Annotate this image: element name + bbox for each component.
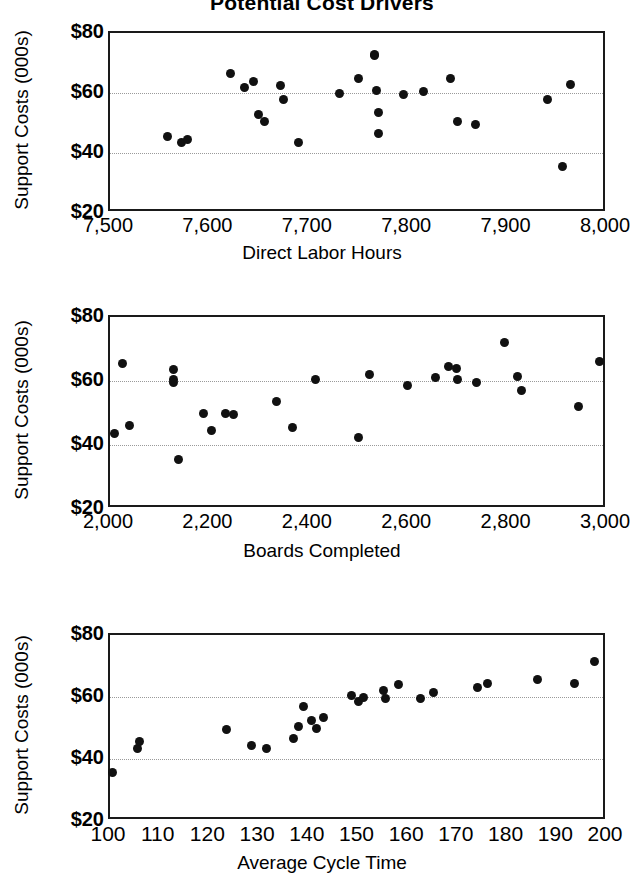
data-point xyxy=(262,744,271,753)
data-point xyxy=(471,120,480,129)
x-tick-label: 160 xyxy=(389,822,424,846)
data-point xyxy=(240,83,249,92)
data-point xyxy=(276,81,285,90)
data-point xyxy=(163,132,172,141)
data-point xyxy=(374,129,383,138)
x-tick-label: 200 xyxy=(587,822,622,846)
x-tick-label: 2,000 xyxy=(83,510,133,533)
y-axis-tick-labels: $20$40$60$80 xyxy=(42,31,104,211)
data-point xyxy=(335,89,344,98)
x-tick-label: 2,400 xyxy=(282,510,332,533)
x-tick-label: 2,600 xyxy=(381,510,431,533)
x-axis-title: Average Cycle Time xyxy=(0,852,644,874)
x-tick-label: 7,600 xyxy=(182,214,232,237)
x-tick-label: 7,900 xyxy=(481,214,531,237)
data-point xyxy=(453,375,462,384)
x-tick-label: 110 xyxy=(141,822,174,846)
y-axis-tick-labels: $20$40$60$80 xyxy=(42,633,104,819)
x-tick-label: 3,000 xyxy=(580,510,630,533)
data-point xyxy=(558,162,567,171)
plot-area xyxy=(108,31,605,211)
data-point xyxy=(374,108,383,117)
data-point xyxy=(365,370,374,379)
y-tick-label: $80 xyxy=(71,622,104,645)
data-point xyxy=(372,86,381,95)
x-tick-label: 7,700 xyxy=(282,214,332,237)
data-point xyxy=(473,683,482,692)
x-tick-label: 2,200 xyxy=(182,510,232,533)
x-tick-label: 7,500 xyxy=(83,214,133,237)
data-point xyxy=(354,74,363,83)
x-tick-label: 7,800 xyxy=(381,214,431,237)
plot-area xyxy=(108,633,605,819)
data-point xyxy=(429,688,438,697)
data-point xyxy=(183,135,192,144)
x-tick-label: 190 xyxy=(538,822,573,846)
gridline xyxy=(110,445,603,446)
data-point xyxy=(294,722,303,731)
data-point xyxy=(381,694,390,703)
data-point xyxy=(222,725,231,734)
data-point xyxy=(399,90,408,99)
data-point xyxy=(453,117,462,126)
data-point xyxy=(135,737,144,746)
data-point xyxy=(207,426,216,435)
plot-area xyxy=(108,315,605,507)
data-point xyxy=(118,359,127,368)
x-tick-label: 100 xyxy=(90,822,125,846)
y-axis-title: Support Costs (000s) xyxy=(11,630,33,820)
y-axis-title: Support Costs (000s) xyxy=(11,315,33,505)
y-axis-tick-labels: $20$40$60$80 xyxy=(42,315,104,507)
x-tick-label: 8,000 xyxy=(580,214,630,237)
y-axis-title: Support Costs (000s) xyxy=(11,25,33,215)
x-axis-title: Direct Labor Hours xyxy=(0,242,644,264)
data-point xyxy=(110,429,119,438)
x-tick-label: 120 xyxy=(190,822,225,846)
data-point xyxy=(311,375,320,384)
data-point xyxy=(403,381,412,390)
data-point xyxy=(590,657,599,666)
data-point xyxy=(229,410,238,419)
data-point xyxy=(446,74,455,83)
gridline xyxy=(110,381,603,382)
data-point xyxy=(513,372,522,381)
data-point xyxy=(574,402,583,411)
y-tick-label: $80 xyxy=(71,304,104,327)
y-tick-label: $40 xyxy=(71,140,104,163)
y-tick-label: $40 xyxy=(71,746,104,769)
data-point xyxy=(370,50,379,59)
data-point xyxy=(169,378,178,387)
data-point xyxy=(517,386,526,395)
data-point xyxy=(394,680,403,689)
scatter-panel-boards-completed: Support Costs (000s) $20$40$60$80 2,0002… xyxy=(0,285,644,575)
x-tick-label: 170 xyxy=(438,822,473,846)
data-point xyxy=(299,702,308,711)
data-point xyxy=(483,679,492,688)
data-point xyxy=(289,734,298,743)
gridline xyxy=(110,93,603,94)
y-tick-label: $40 xyxy=(71,432,104,455)
gridline xyxy=(110,759,603,760)
y-tick-label: $60 xyxy=(71,80,104,103)
potential-cost-drivers-figure: Potential Cost Drivers Support Costs (00… xyxy=(0,0,644,878)
gridline xyxy=(110,153,603,154)
data-point xyxy=(108,768,117,777)
data-point xyxy=(272,397,281,406)
data-point xyxy=(199,409,208,418)
scatter-panel-direct-labor-hours: Support Costs (000s) $20$40$60$80 7,5007… xyxy=(0,0,644,268)
data-point xyxy=(169,365,178,374)
data-point xyxy=(319,713,328,722)
data-point xyxy=(533,675,542,684)
data-point xyxy=(249,77,258,86)
x-tick-label: 180 xyxy=(488,822,523,846)
x-tick-label: 140 xyxy=(289,822,324,846)
data-point xyxy=(247,741,256,750)
data-point xyxy=(288,423,297,432)
data-point xyxy=(416,694,425,703)
data-point xyxy=(566,80,575,89)
x-axis-title: Boards Completed xyxy=(0,540,644,562)
data-point xyxy=(500,338,509,347)
data-point xyxy=(595,357,604,366)
data-point xyxy=(294,138,303,147)
data-point xyxy=(125,421,134,430)
